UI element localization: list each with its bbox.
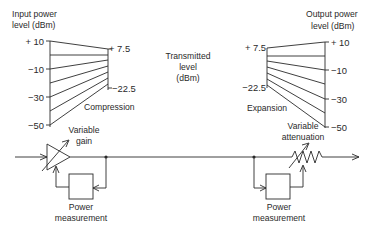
svg-text:+ 10: + 10 (25, 36, 44, 47)
compressor-output-ticks: + 7.5 −22.5 (109, 43, 136, 94)
right-feedback-loop (252, 155, 306, 199)
svg-text:Transmitted: Transmitted (165, 51, 210, 61)
variable-attenuator-icon (289, 143, 326, 168)
svg-text:measurement: measurement (253, 213, 306, 223)
svg-text:Variable: Variable (288, 121, 319, 131)
svg-text:+ 10: + 10 (331, 37, 350, 48)
svg-text:Input power: Input power (12, 9, 57, 19)
svg-text:Output power: Output power (306, 9, 358, 19)
svg-text:−22.5: −22.5 (112, 83, 136, 94)
compander-block-diagram: Input power level (dBm) Output power lev… (0, 0, 373, 232)
compression-label: Compression (84, 102, 135, 112)
compression-chart (46, 41, 112, 127)
svg-text:−22.5: −22.5 (242, 82, 266, 93)
svg-text:−50: −50 (28, 120, 44, 131)
output-signal-arrow (326, 154, 359, 160)
power-measurement-label-right: Power measurement (253, 202, 306, 223)
variable-attenuation-label: Variable attenuation (282, 121, 325, 142)
svg-text:Variable: Variable (69, 125, 100, 135)
input-power-label: Input power level (dBm) (12, 9, 57, 30)
expander-input-ticks: + 7.5 −22.5 (242, 42, 266, 93)
svg-text:attenuation: attenuation (282, 132, 325, 142)
expansion-label: Expansion (247, 103, 287, 113)
svg-text:+ 7.5: + 7.5 (245, 42, 266, 53)
svg-text:−10: −10 (28, 64, 44, 75)
svg-text:−50: −50 (331, 122, 347, 133)
svg-text:gain: gain (76, 136, 92, 146)
output-power-label: Output power level (dBm) (306, 9, 358, 31)
svg-text:+ 7.5: + 7.5 (109, 43, 130, 54)
svg-text:level (dBm): level (dBm) (311, 21, 355, 31)
output-level-ticks: + 10 −10 −30 −50 (331, 37, 350, 133)
svg-text:−30: −30 (28, 92, 44, 103)
power-measurement-box-right (266, 174, 290, 199)
svg-text:Power: Power (267, 202, 291, 212)
svg-text:(dBm): (dBm) (176, 73, 200, 83)
expansion-chart (267, 42, 329, 128)
svg-text:measurement: measurement (55, 213, 108, 223)
svg-text:level: level (179, 62, 197, 72)
input-level-ticks: + 10 −10 −30 −50 (25, 36, 44, 131)
power-measurement-label-left: Power measurement (55, 202, 108, 223)
svg-text:−10: −10 (331, 65, 347, 76)
svg-text:Power: Power (69, 202, 93, 212)
variable-gain-label: Variable gain (69, 125, 100, 146)
power-measurement-box-left (69, 174, 93, 199)
transmitted-level-label: Transmitted level (dBm) (165, 51, 210, 83)
svg-text:−30: −30 (331, 94, 347, 105)
svg-text:level (dBm): level (dBm) (12, 20, 56, 30)
input-signal-arrow (15, 154, 47, 160)
